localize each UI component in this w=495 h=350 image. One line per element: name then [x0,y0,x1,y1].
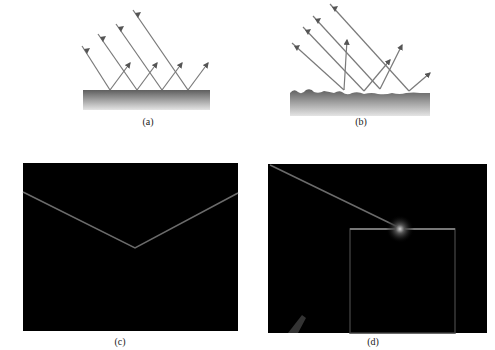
panel-d-photo [268,164,487,333]
reflection-diagram [0,0,495,350]
panel-d-label: (d) [367,336,379,347]
panel-b-label: (b) [355,116,367,127]
panel-c-label: (c) [114,336,125,347]
panel-a-specular [82,10,210,110]
panel-b-diffuse [290,4,430,116]
panel-c-photo [23,163,238,331]
panel-a-label: (a) [142,116,153,127]
